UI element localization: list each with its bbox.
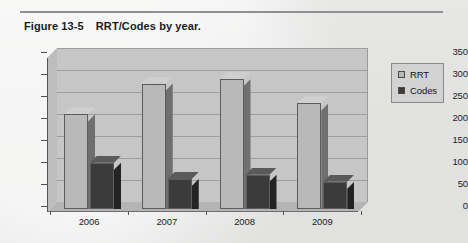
x-axis-tick-label: 2006: [69, 216, 109, 227]
legend-item-label: RRT: [410, 69, 429, 80]
bar-codes-2007: [168, 179, 192, 209]
bar-front-face: [246, 175, 270, 209]
bar-rrt-2008: [220, 79, 244, 209]
chart-axis-y: [47, 58, 48, 212]
y-axis-tick-label: 350: [422, 46, 468, 57]
legend-item-codes: Codes: [398, 85, 443, 96]
gridline: [57, 70, 368, 71]
bar-codes-2006: [90, 163, 114, 209]
x-axis-tick-label: 2007: [147, 216, 187, 227]
legend-item-label: Codes: [410, 85, 437, 96]
bar-rrt-2007: [142, 84, 166, 209]
y-axis-tick-label: 150: [422, 134, 468, 145]
chart-axis-x: [47, 211, 358, 212]
y-axis-tick-mark: [41, 140, 47, 141]
bar-codes-2009: [323, 182, 347, 209]
bar-front-face: [168, 179, 192, 209]
y-axis-tick-mark: [41, 206, 47, 207]
x-axis-tick-mark: [283, 211, 284, 215]
gridline: [57, 92, 368, 93]
y-axis-tick-mark: [41, 118, 47, 119]
x-axis-tick-label: 2009: [302, 216, 342, 227]
bar-side-face: [114, 163, 121, 209]
y-axis-tick-label: 50: [422, 178, 468, 189]
y-axis-tick-label: 200: [422, 112, 468, 123]
bar-front-face: [142, 84, 166, 209]
x-axis-tick-mark: [361, 211, 362, 215]
y-axis-tick-mark: [41, 96, 47, 97]
y-axis-tick-label: 100: [422, 156, 468, 167]
y-axis-tick-mark: [41, 74, 47, 75]
bar-front-face: [220, 79, 244, 209]
bar-rrt-2009: [297, 103, 321, 209]
legend-swatch-icon: [398, 87, 405, 94]
gridline: [57, 48, 368, 49]
figure-title: RRT/Codes by year.: [96, 20, 201, 32]
figure-number: Figure 13-5: [24, 20, 84, 32]
figure-top-rule: [20, 11, 443, 13]
bar-front-face: [297, 103, 321, 209]
y-axis-tick-label: 0: [422, 200, 468, 211]
legend-swatch-icon: [398, 71, 405, 78]
bar-codes-2008: [246, 175, 270, 209]
x-axis-tick-mark: [206, 211, 207, 215]
y-axis-tick-mark: [41, 184, 47, 185]
bar-rrt-2006: [64, 114, 88, 209]
legend-item-rrt: RRT: [398, 69, 443, 80]
bar-front-face: [90, 163, 114, 209]
chart-side-wall: [47, 48, 57, 212]
bar-front-face: [323, 182, 347, 209]
x-axis-tick-mark: [50, 211, 51, 215]
chart-legend: RRTCodes: [391, 63, 444, 103]
x-axis-tick-label: 2008: [225, 216, 265, 227]
y-axis-tick-mark: [41, 162, 47, 163]
figure-caption: Figure 13-5RRT/Codes by year.: [24, 20, 201, 32]
bar-front-face: [64, 114, 88, 209]
y-axis-tick-mark: [41, 52, 47, 53]
x-axis-tick-mark: [128, 211, 129, 215]
